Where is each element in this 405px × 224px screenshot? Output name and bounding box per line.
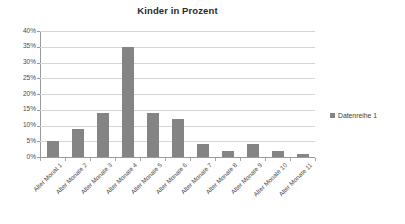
- bar: [272, 151, 284, 157]
- bar-slot: [165, 31, 190, 157]
- bar-slot: [90, 31, 115, 157]
- bar-slot: [190, 31, 215, 157]
- bar-slot: [40, 31, 65, 157]
- bar: [247, 144, 259, 157]
- bar-slot: [140, 31, 165, 157]
- bar-chart: Kinder in Prozent 40%35%30%25%20%15%10%5…: [0, 0, 405, 224]
- legend-label-datenreihe-1: Datenreihe 1: [338, 112, 377, 119]
- x-axis-labels: Alter Monat 1Alter Monate 2Alter Monate …: [40, 160, 315, 222]
- bar-slot: [115, 31, 140, 157]
- chart-title: Kinder in Prozent: [40, 5, 315, 16]
- plot-area: [40, 31, 315, 157]
- bar-slot: [215, 31, 240, 157]
- bar: [147, 113, 159, 157]
- bar: [122, 47, 134, 157]
- bar-slot: [65, 31, 90, 157]
- bar: [297, 154, 309, 157]
- y-axis-ticks: [0, 31, 40, 157]
- chart-legend: Datenreihe 1: [330, 112, 377, 119]
- bar: [97, 113, 109, 157]
- bar-slot: [265, 31, 290, 157]
- legend-swatch-datenreihe-1: [330, 113, 335, 118]
- bar: [197, 144, 209, 157]
- bar: [172, 119, 184, 157]
- bar: [47, 141, 59, 157]
- bar-slot: [290, 31, 315, 157]
- bar: [222, 151, 234, 157]
- bar: [72, 129, 84, 157]
- x-tick: [315, 158, 316, 161]
- bar-slot: [240, 31, 265, 157]
